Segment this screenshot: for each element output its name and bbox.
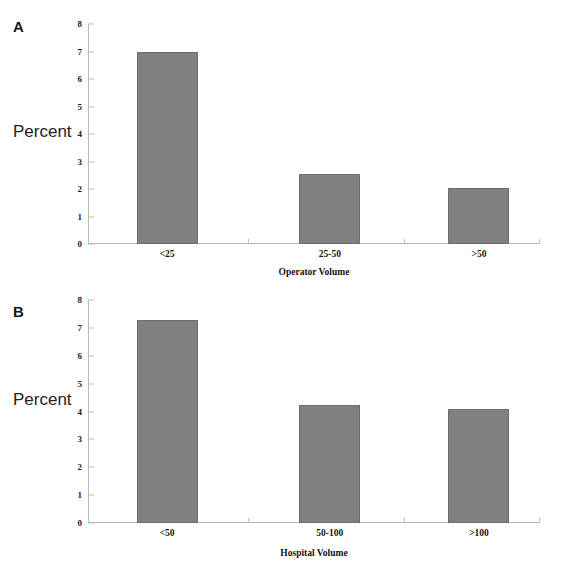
x-category-label-50-100: 50-100 [316,528,343,538]
y-tick-label: 1 [78,212,83,221]
x-tick-mark [404,518,405,523]
y-tick-mark [88,327,94,328]
x-tick-mark [248,518,249,523]
bar-<50 [137,320,198,523]
y-tick-mark [88,355,94,356]
y-tick-mark [88,51,94,52]
panel-a: A Percent 012345678 <2525-50>50 Operator… [0,0,567,285]
bar-25-50 [299,174,360,244]
x-category-label->100: >100 [469,528,489,538]
x-tick-mark [539,239,540,244]
x-tick-mark [539,518,540,523]
panel-a-x-axis-title: Operator Volume [88,267,540,277]
y-tick-mark [88,467,94,468]
x-category-label-25-50: 25-50 [319,249,341,259]
y-tick-mark [88,523,94,524]
y-tick-label: 2 [78,463,83,472]
panel-b-x-axis-title: Hospital Volume [88,548,540,558]
panel-b: B Percent 012345678 <5050-100>100 Hospit… [0,285,567,569]
x-tick-mark [248,239,249,244]
y-tick-mark [88,106,94,107]
panel-b-letter: B [13,303,24,320]
figure-container: A Percent 012345678 <2525-50>50 Operator… [0,0,567,569]
y-tick-label: 4 [78,407,83,416]
y-tick-mark [88,216,94,217]
y-tick-label: 1 [78,491,83,500]
y-tick-mark [88,300,94,301]
x-category-label->50: >50 [472,249,487,259]
y-tick-mark [88,189,94,190]
y-tick-label: 5 [78,102,83,111]
y-tick-label: 0 [78,240,83,249]
y-tick-label: 4 [78,130,83,139]
y-tick-mark [88,79,94,80]
y-tick-label: 8 [78,20,83,29]
x-category-label-<50: <50 [160,528,175,538]
panel-b-plot-area: 012345678 [88,300,540,523]
bar->100 [448,409,509,523]
y-tick-label: 8 [78,296,83,305]
x-category-label-<25: <25 [160,249,175,259]
y-tick-label: 7 [78,47,83,56]
y-tick-label: 3 [78,435,83,444]
y-tick-label: 6 [78,75,83,84]
bar-<25 [137,52,198,245]
y-tick-mark [88,411,94,412]
y-tick-label: 0 [78,519,83,528]
y-tick-mark [88,134,94,135]
y-tick-mark [88,495,94,496]
y-tick-mark [88,24,94,25]
panel-a-y-axis-title: Percent [13,122,72,142]
y-tick-mark [88,383,94,384]
y-tick-label: 3 [78,157,83,166]
y-tick-label: 2 [78,185,83,194]
y-tick-label: 5 [78,379,83,388]
panel-b-y-axis-title: Percent [13,390,72,410]
bar->50 [448,188,509,244]
y-tick-mark [88,244,94,245]
panel-a-letter: A [13,18,24,35]
x-tick-mark [404,239,405,244]
y-tick-mark [88,439,94,440]
y-tick-label: 6 [78,351,83,360]
y-tick-label: 7 [78,323,83,332]
panel-a-plot-area: 012345678 [88,24,540,244]
y-tick-mark [88,161,94,162]
bar-50-100 [299,405,360,523]
